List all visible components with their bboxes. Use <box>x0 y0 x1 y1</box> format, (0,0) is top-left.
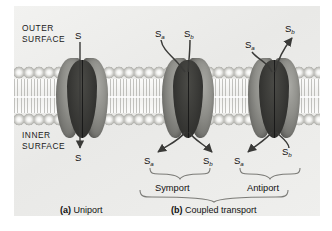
solute-subscript: b <box>209 160 212 167</box>
solute-base: S <box>75 152 81 163</box>
outer-surface-line2: SURFACE <box>22 34 65 44</box>
transporter-protein-uniport <box>56 58 108 138</box>
outer-surface-label: OUTER SURFACE <box>22 23 65 44</box>
solute-label-antiport-top-a: Sa <box>245 39 255 51</box>
solute-label-antiport-top-b: Sb <box>285 23 295 35</box>
solute-label-uniport-top: S <box>75 30 81 41</box>
mode-label-antiport: Antiport <box>247 183 279 193</box>
solute-label-antiport-bottom-a: Sa <box>234 155 244 167</box>
caption-marker: (b) <box>171 205 183 215</box>
solute-base: S <box>75 30 81 41</box>
solute-subscript: a <box>161 33 164 40</box>
caption-text: Uniport <box>74 205 103 215</box>
solute-subscript: a <box>240 160 243 167</box>
solute-label-uniport-bottom: S <box>75 152 81 163</box>
solute-subscript: b <box>190 33 193 40</box>
inner-surface-line1: INNER <box>22 130 51 140</box>
solute-subscript: b <box>291 28 294 35</box>
solute-subscript: a <box>150 160 153 167</box>
solute-label-symport-top-a: Sa <box>155 28 165 40</box>
caption-coupled-transport: (b) Coupled transport <box>171 205 257 215</box>
solute-subscript: a <box>251 44 254 51</box>
transporter-protein-antiport <box>248 58 300 138</box>
caption-text: Coupled transport <box>185 205 257 215</box>
outer-surface-line1: OUTER <box>22 23 54 33</box>
solute-label-antiport-bottom-b: Sb <box>282 146 292 158</box>
solute-label-symport-top-b: Sb <box>184 28 194 40</box>
mode-label-symport: Symport <box>155 183 190 193</box>
inner-surface-line2: SURFACE <box>22 141 65 151</box>
caption-marker: (a) <box>60 205 71 215</box>
transporter-protein-symport <box>162 58 214 138</box>
inner-surface-label: INNER SURFACE <box>22 130 65 151</box>
membrane-transport-figure: OUTER SURFACE INNER SURFACE S S Sa Sb Sa… <box>0 0 332 231</box>
solute-label-symport-bottom-a: Sa <box>144 155 154 167</box>
caption-uniport: (a) Uniport <box>60 205 103 215</box>
solute-subscript: b <box>288 151 291 158</box>
solute-label-symport-bottom-b: Sb <box>203 155 213 167</box>
